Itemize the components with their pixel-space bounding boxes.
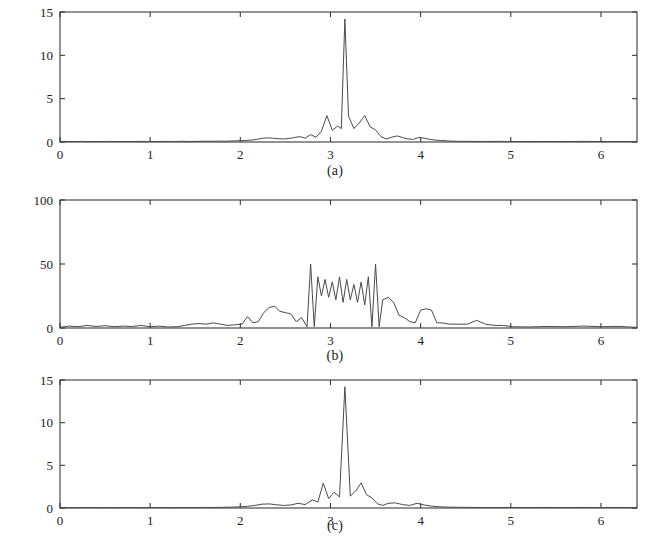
y-tick-label: 50 xyxy=(40,257,53,272)
plot-frame xyxy=(60,12,637,142)
y-tick-label: 0 xyxy=(47,321,54,336)
x-tick-label: 6 xyxy=(598,333,605,348)
x-tick-label: 2 xyxy=(237,147,244,162)
panel-b-plot: 0123456050100 xyxy=(0,190,670,350)
data-line-spectrum-b xyxy=(60,264,637,327)
x-tick-label: 1 xyxy=(147,147,154,162)
y-tick-label: 10 xyxy=(40,415,53,430)
data-line-spectrum-c xyxy=(60,387,637,508)
x-tick-label: 2 xyxy=(237,333,244,348)
x-tick-label: 0 xyxy=(57,333,64,348)
panel-a: 0123456051015 xyxy=(0,0,670,165)
x-tick-label: 3 xyxy=(327,147,334,162)
x-tick-label: 0 xyxy=(57,147,64,162)
y-tick-label: 5 xyxy=(47,91,54,106)
panel-c: 0123456051015 xyxy=(0,372,670,530)
figure-container: 0123456051015 (a) 0123456050100 (b) 0123… xyxy=(0,0,670,548)
data-line-spectrum-a xyxy=(60,19,637,142)
panel-b: 0123456050100 xyxy=(0,190,670,350)
x-tick-label: 4 xyxy=(417,147,424,162)
y-tick-label: 15 xyxy=(40,5,53,20)
plot-frame xyxy=(60,380,637,508)
panel-c-plot: 0123456051015 xyxy=(0,372,670,530)
panel-b-caption: (b) xyxy=(0,348,670,364)
y-tick-label: 0 xyxy=(47,135,54,150)
x-tick-label: 5 xyxy=(508,147,515,162)
x-tick-label: 5 xyxy=(508,333,515,348)
panel-a-plot: 0123456051015 xyxy=(0,0,670,165)
x-tick-label: 3 xyxy=(327,333,334,348)
panel-c-caption: (c) xyxy=(0,518,670,534)
y-tick-label: 0 xyxy=(47,501,54,516)
y-tick-label: 10 xyxy=(40,48,53,63)
y-tick-label: 5 xyxy=(47,458,54,473)
x-tick-label: 6 xyxy=(598,147,605,162)
plot-frame xyxy=(60,200,637,328)
y-tick-label: 15 xyxy=(40,373,53,388)
x-tick-label: 1 xyxy=(147,333,154,348)
panel-a-caption: (a) xyxy=(0,163,670,179)
y-tick-label: 100 xyxy=(34,193,54,208)
x-tick-label: 4 xyxy=(417,333,424,348)
